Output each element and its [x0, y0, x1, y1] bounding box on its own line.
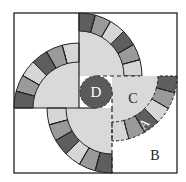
pinwheel-diagram: D C A B [0, 0, 186, 182]
label-b: B [150, 148, 159, 163]
label-d: D [91, 84, 102, 100]
label-c: C [128, 91, 137, 106]
